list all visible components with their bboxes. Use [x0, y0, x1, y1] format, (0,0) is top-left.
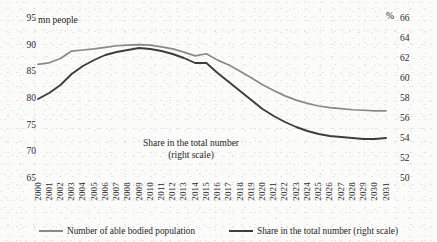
right-axis-tick: 66 — [400, 13, 422, 23]
x-axis-tick: 2018 — [236, 182, 245, 201]
right-axis-tick: 52 — [400, 153, 422, 163]
right-axis-tick: 56 — [400, 113, 422, 123]
x-axis-tick: 2025 — [314, 182, 323, 201]
right-axis-tick: 58 — [400, 93, 422, 103]
x-axis-tick: 2024 — [303, 182, 312, 201]
legend-item[interactable]: Share in the total number (right scale) — [229, 226, 398, 236]
legend-label: Share in the total number (right scale) — [257, 226, 398, 236]
legend-swatch — [229, 230, 253, 232]
x-axis-tick: 2005 — [90, 182, 99, 201]
left-axis-tick: 90 — [14, 40, 36, 50]
x-axis-tick: 2021 — [269, 182, 278, 201]
x-axis-tick: 2031 — [382, 182, 391, 201]
x-axis-tick: 2027 — [337, 182, 346, 201]
x-axis-tick: 2014 — [191, 182, 200, 201]
x-axis-tick: 2009 — [135, 182, 144, 201]
annotation-line-2: (right scale) — [112, 150, 270, 162]
x-axis-tick: 2013 — [179, 182, 188, 201]
x-axis-tick: 2020 — [258, 182, 267, 201]
right-axis-tick: 60 — [400, 73, 422, 83]
x-axis-tick: 2007 — [112, 182, 121, 201]
x-axis-tick: 2008 — [123, 182, 132, 201]
x-axis-tick: 2002 — [56, 182, 65, 201]
series-line — [38, 45, 386, 111]
annotation-line-1: Share in the total number — [112, 138, 270, 150]
right-axis-tick: 62 — [400, 53, 422, 63]
x-axis-tick: 2001 — [45, 182, 54, 201]
legend-swatch — [39, 230, 63, 232]
x-axis-tick: 2019 — [247, 182, 256, 201]
left-axis-tick: 85 — [14, 66, 36, 76]
x-axis-tick: 2026 — [325, 182, 334, 201]
left-axis-tick: 70 — [14, 146, 36, 156]
right-axis-tick: 54 — [400, 133, 422, 143]
chart-annotation: Share in the total number (right scale) — [112, 138, 270, 161]
x-axis-tick: 2003 — [67, 182, 76, 201]
x-axis-tick: 2022 — [280, 182, 289, 201]
x-axis-tick: 2011 — [157, 182, 166, 200]
left-axis-tick: 80 — [14, 93, 36, 103]
legend-label: Number of able bodied population — [67, 226, 195, 236]
x-axis-tick: 2010 — [146, 182, 155, 201]
x-axis-tick: 2000 — [34, 182, 43, 201]
chart-container: mn people % 65707580859095 5052545658606… — [0, 0, 437, 242]
x-axis-tick: 2028 — [348, 182, 357, 201]
right-axis-tick: 64 — [400, 33, 422, 43]
x-axis-tick: 2030 — [370, 182, 379, 201]
left-axis-tick: 75 — [14, 120, 36, 130]
chart-legend: Number of able bodied populationShare in… — [0, 226, 437, 236]
series-line — [38, 48, 386, 139]
x-axis-tick: 2029 — [359, 182, 368, 201]
x-axis-tick: 2015 — [202, 182, 211, 201]
x-axis-tick: 2012 — [168, 182, 177, 201]
x-axis-tick: 2004 — [78, 182, 87, 201]
right-axis-tick: 50 — [400, 173, 422, 183]
left-axis-tick: 95 — [14, 13, 36, 23]
x-axis-tick: 2023 — [292, 182, 301, 201]
right-axis-unit-label: % — [386, 11, 394, 21]
x-axis-tick: 2017 — [224, 182, 233, 201]
x-axis-tick: 2006 — [101, 182, 110, 201]
x-axis-tick: 2016 — [213, 182, 222, 201]
legend-item[interactable]: Number of able bodied population — [39, 226, 195, 236]
